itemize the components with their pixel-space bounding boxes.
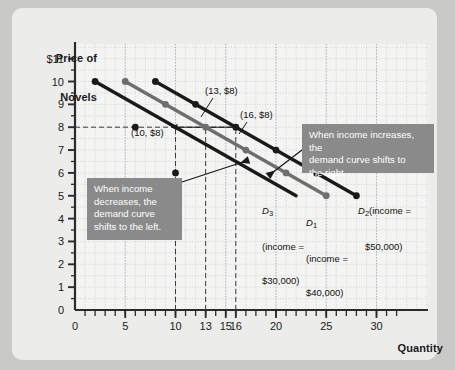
curve-label-d3-income1: (income = xyxy=(262,241,304,253)
x-tick-13: 13 xyxy=(200,320,212,332)
data-point xyxy=(162,101,169,108)
income-increase-callout: When income increases, the demand curve … xyxy=(302,124,434,173)
x-tick-10: 10 xyxy=(169,320,181,332)
income-decrease-callout-line1: When income xyxy=(94,183,175,196)
y-tick-7: 7 xyxy=(58,144,64,156)
data-point xyxy=(152,78,159,85)
income-decrease-callout-line2: decreases, the xyxy=(94,196,175,209)
curve-label-d3-letter: D xyxy=(262,205,269,216)
income-increase-callout-line1: When income increases, the xyxy=(309,129,427,154)
data-point xyxy=(283,170,290,177)
y-tick-5: 5 xyxy=(58,190,64,202)
y-axis-title-line1: Price of xyxy=(27,52,97,65)
x-tick-25: 25 xyxy=(320,320,332,332)
x-tick-5: 5 xyxy=(122,320,128,332)
y-tick-1: 1 xyxy=(58,281,64,293)
income-increase-callout-line3: the right. xyxy=(309,167,427,180)
y-tick-6: 6 xyxy=(58,167,64,179)
income-decrease-callout-line3: demand curve xyxy=(94,208,175,221)
curve-label-d1-income1: (income = xyxy=(306,253,348,265)
curve-label-d2-sub: 2 xyxy=(365,209,369,218)
curve-label-d1-letter: D xyxy=(306,217,313,228)
curve-label-d3: D3 (income = $30,000) xyxy=(262,182,304,310)
point-label-10-8: (10, $8) xyxy=(131,127,164,138)
data-point xyxy=(172,170,179,177)
data-point xyxy=(122,78,129,85)
figure-root: $111098765432100510131516202530 Price of… xyxy=(0,0,455,370)
y-axis-title-line2: Novels xyxy=(27,91,97,104)
curve-label-d3-income2: $30,000) xyxy=(262,275,304,287)
data-point xyxy=(273,147,280,154)
curve-label-d1-sub: 1 xyxy=(313,221,317,230)
point-label-13-8: (13, $8) xyxy=(205,85,238,96)
curve-label-d3-sub: 3 xyxy=(269,209,273,218)
y-tick-4: 4 xyxy=(58,213,64,225)
x-tick-20: 20 xyxy=(270,320,282,332)
curve-label-d2-income2: $50,000) xyxy=(365,241,411,253)
income-decrease-callout: When income decreases, the demand curve … xyxy=(87,178,182,240)
y-tick-2: 2 xyxy=(58,258,64,270)
curve-label-d2-letter: D xyxy=(358,205,365,216)
curve-label-d2-income1: (income = xyxy=(369,205,411,216)
income-decrease-callout-line4: shifts to the left. xyxy=(94,221,175,234)
data-point xyxy=(192,101,199,108)
point-label-16-8: (16, $8) xyxy=(240,109,273,120)
x-tick-0: 0 xyxy=(72,320,78,332)
y-tick-0: 0 xyxy=(58,304,64,316)
x-axis-title-line1: Quantity xyxy=(381,342,443,355)
data-point xyxy=(232,124,239,131)
curve-label-d1: D1 (income = $40,000) xyxy=(306,194,348,322)
x-tick-16: 16 xyxy=(230,320,242,332)
y-tick-3: 3 xyxy=(58,235,64,247)
data-point xyxy=(202,124,209,131)
income-increase-callout-line2: demand curve shifts to xyxy=(309,154,427,167)
data-point xyxy=(242,147,249,154)
curve-label-d2: D2(income = $50,000) xyxy=(358,182,411,275)
curve-label-d1-income2: $40,000) xyxy=(306,287,348,299)
